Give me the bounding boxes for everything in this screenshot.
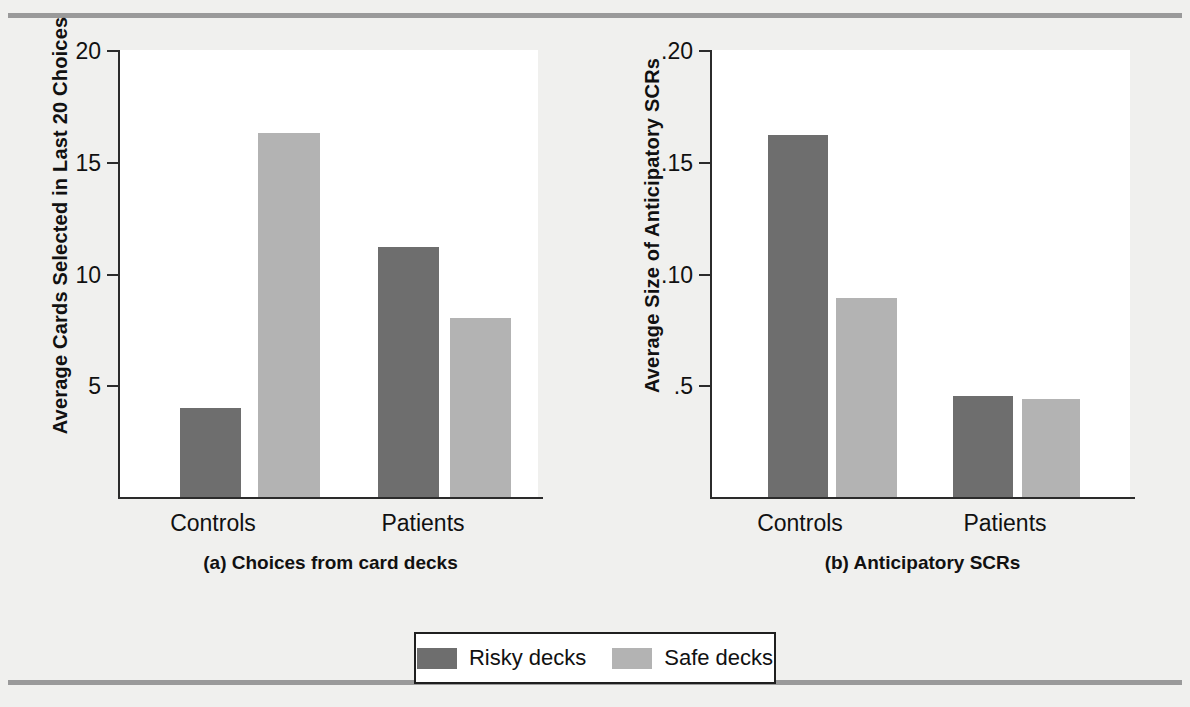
- x-group-label-a-controls: Controls: [118, 510, 308, 537]
- panel-a: Average Cards Selected in Last 20 Choice…: [8, 24, 578, 584]
- bar-a-controls-safe: [258, 133, 320, 497]
- y-axis-title-a: Average Cards Selected in Last 20 Choice…: [49, 16, 72, 436]
- y-tick-label-b-10: .10: [661, 262, 693, 289]
- x-group-label-a-patients: Patients: [328, 510, 518, 537]
- y-tick-b-10: .10: [699, 274, 711, 276]
- y-axis-title-b: Average Size of Anticipatory SCRs: [641, 16, 664, 436]
- legend: Risky decks Safe decks: [414, 632, 776, 684]
- y-tick-a-5: 5: [107, 385, 119, 387]
- bar-a-controls-risky: [180, 408, 241, 497]
- bars-layer-b: [712, 50, 1135, 497]
- bar-a-patients-safe: [450, 318, 511, 497]
- panel-b: Average Size of Anticipatory SCRs .20 .1…: [600, 24, 1170, 584]
- bars-layer-a: [120, 50, 543, 497]
- x-axis-b: [710, 497, 1135, 499]
- x-group-label-b-controls: Controls: [705, 510, 895, 537]
- y-tick-label-a-10: 10: [75, 262, 101, 289]
- x-axis-a: [118, 497, 543, 499]
- legend-label-risky: Risky decks: [469, 645, 586, 671]
- bar-b-patients-risky: [953, 396, 1013, 497]
- y-tick-a-20: 20: [107, 50, 119, 52]
- bar-b-controls-risky: [768, 135, 828, 497]
- y-tick-label-b-15: .15: [661, 150, 693, 177]
- bar-b-patients-safe: [1022, 399, 1080, 497]
- legend-swatch-risky-icon: [417, 648, 457, 669]
- y-tick-b-20: .20: [699, 50, 711, 52]
- bar-b-controls-safe: [836, 298, 897, 497]
- legend-label-safe: Safe decks: [664, 645, 773, 671]
- x-group-label-b-patients: Patients: [910, 510, 1100, 537]
- y-tick-label-b-5: .5: [674, 373, 693, 400]
- y-tick-label-a-15: 15: [75, 150, 101, 177]
- panel-caption-a: (a) Choices from card decks: [118, 552, 543, 574]
- y-tick-a-15: 15: [107, 162, 119, 164]
- y-tick-b-15: .15: [699, 162, 711, 164]
- top-rule: [8, 13, 1182, 18]
- y-tick-label-a-5: 5: [88, 373, 101, 400]
- bar-a-patients-risky: [378, 247, 439, 497]
- y-tick-label-a-20: 20: [75, 38, 101, 65]
- legend-swatch-safe-icon: [612, 648, 652, 669]
- y-tick-label-b-20: .20: [661, 38, 693, 65]
- legend-item-safe: Safe decks: [612, 645, 773, 671]
- y-tick-a-10: 10: [107, 274, 119, 276]
- y-tick-b-5: .5: [699, 385, 711, 387]
- panel-caption-b: (b) Anticipatory SCRs: [710, 552, 1135, 574]
- legend-item-risky: Risky decks: [417, 645, 586, 671]
- figure: Average Cards Selected in Last 20 Choice…: [0, 24, 1190, 674]
